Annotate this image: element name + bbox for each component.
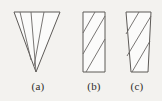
shape-group-b — [83, 12, 105, 72]
panel-caption-b: (b) — [72, 80, 116, 93]
panel-caption-a: (a) — [16, 80, 60, 93]
shape-group-c — [126, 12, 151, 72]
trapezoid-outline-c — [126, 12, 151, 72]
figure-container: (a) (b) (c) — [0, 0, 162, 101]
panel-caption-c: (c) — [115, 80, 159, 93]
shape-group-a — [14, 12, 60, 72]
triangle-outline-a — [14, 12, 60, 72]
